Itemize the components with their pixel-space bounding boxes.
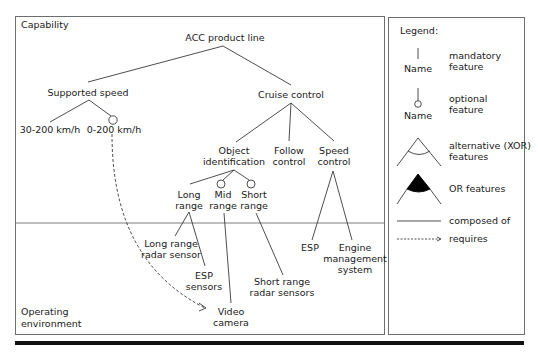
region-operating-label-line2: environment — [21, 318, 82, 330]
feature-short-range: Short range — [240, 189, 268, 211]
env-esp: ESP — [301, 242, 319, 253]
legend-optional-line1: optional — [449, 93, 488, 104]
legend-optional-text: optional feature — [449, 93, 488, 115]
follow-control-line1: Follow — [273, 145, 306, 156]
mid-range-line2: range — [209, 200, 237, 211]
region-capability-label: Capability — [21, 19, 69, 31]
short-range-radar-line2: radar sensors — [250, 287, 315, 298]
long-range-line2: range — [175, 200, 203, 211]
engine-mgmt-line3: system — [323, 264, 387, 275]
env-long-range-radar-sensor: Long range radar sensor — [141, 238, 201, 260]
legend-mandatory-text: mandatory feature — [449, 50, 501, 72]
legend-alternative-text: alternative (XOR) features — [449, 140, 531, 162]
long-range-line1: Long — [175, 189, 203, 200]
env-engine-management-system: Engine management system — [323, 242, 387, 275]
speed-control-line1: Speed — [318, 145, 351, 156]
legend-mandatory-line2: feature — [449, 61, 501, 72]
legend-mandatory-name: Name — [404, 63, 432, 74]
esp-sensors-line2: sensors — [186, 281, 222, 292]
esp-sensors-line1: ESP — [186, 270, 222, 281]
legend-composed-text: composed of — [449, 215, 510, 226]
engine-mgmt-line1: Engine — [323, 242, 387, 253]
legend-mandatory-line1: mandatory — [449, 50, 501, 61]
follow-control-line2: control — [273, 156, 306, 167]
region-operating-environment-label: Operating environment — [21, 306, 82, 330]
speed-control-line2: control — [318, 156, 351, 167]
object-identification-line2: identification — [203, 156, 265, 167]
feature-speed-30-200: 30-200 km/h — [20, 124, 81, 135]
feature-speed-control: Speed control — [318, 145, 351, 167]
legend-optional-line2: feature — [449, 104, 488, 115]
video-camera-line1: Video — [213, 306, 249, 317]
env-short-range-radar-sensors: Short range radar sensors — [250, 276, 315, 298]
engine-mgmt-line2: management — [323, 253, 387, 264]
feature-mid-range: Mid range — [209, 189, 237, 211]
legend-alternative-line2: features — [449, 151, 531, 162]
env-video-camera: Video camera — [213, 306, 249, 328]
env-esp-sensors: ESP sensors — [186, 270, 222, 292]
legend-or-text: OR features — [449, 183, 505, 194]
feature-follow-control: Follow control — [273, 145, 306, 167]
short-range-line1: Short — [240, 189, 268, 200]
long-range-radar-line1: Long range — [141, 238, 201, 249]
feature-long-range: Long range — [175, 189, 203, 211]
legend-title: Legend: — [400, 25, 438, 36]
object-identification-line1: Object — [203, 145, 265, 156]
feature-supported-speed: Supported speed — [47, 87, 128, 98]
feature-cruise-control: Cruise control — [258, 89, 324, 100]
video-camera-line2: camera — [213, 317, 249, 328]
feature-speed-0-200: 0-200 km/h — [87, 124, 142, 135]
legend-requires-text: requires — [449, 233, 488, 244]
mid-range-line1: Mid — [209, 189, 237, 200]
feature-object-identification: Object identification — [203, 145, 265, 167]
short-range-line2: range — [240, 200, 268, 211]
long-range-radar-line2: radar sensor — [141, 249, 201, 260]
legend-alternative-line1: alternative (XOR) — [449, 140, 531, 151]
region-operating-label-line1: Operating — [21, 306, 82, 318]
legend-optional-name: Name — [404, 110, 432, 121]
short-range-radar-line1: Short range — [250, 276, 315, 287]
feature-acc-product-line: ACC product line — [185, 32, 264, 43]
